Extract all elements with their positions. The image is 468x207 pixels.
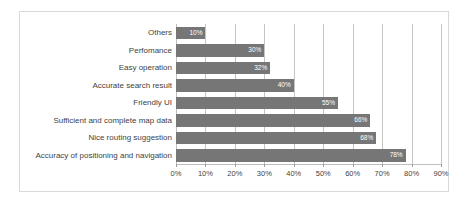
x-tick-mark xyxy=(235,164,236,167)
bar[interactable]: 55% xyxy=(176,97,338,110)
x-tick-mark xyxy=(412,164,413,167)
x-tick-mark xyxy=(176,164,177,167)
x-tick-label: 80% xyxy=(404,169,419,178)
x-tick-label: 20% xyxy=(227,169,242,178)
bar-row: 32% xyxy=(176,59,441,77)
x-tick-label: 30% xyxy=(257,169,272,178)
x-tick-label: 10% xyxy=(198,169,213,178)
category-axis-labels: Accuracy of positioning and navigationNi… xyxy=(30,24,172,164)
bar-value-label: 32% xyxy=(254,62,267,75)
category-label: Friendly UI xyxy=(32,94,172,112)
category-label: Easy operation xyxy=(32,59,172,77)
bar[interactable]: 30% xyxy=(176,44,264,57)
x-tick-label: 50% xyxy=(316,169,331,178)
bar-value-label: 78% xyxy=(390,149,403,162)
bar-row: 68% xyxy=(176,129,441,147)
x-tick-mark xyxy=(264,164,265,167)
x-tick-mark xyxy=(294,164,295,167)
chart-frame: Accuracy of positioning and navigationNi… xyxy=(19,11,449,192)
x-tick-label: 0% xyxy=(171,169,182,178)
bar-value-label: 66% xyxy=(354,114,367,127)
bar-value-label: 40% xyxy=(278,79,291,92)
bar[interactable]: 10% xyxy=(176,27,205,40)
category-label: Accurate search result xyxy=(32,77,172,95)
bar[interactable]: 68% xyxy=(176,132,376,145)
bar-value-label: 68% xyxy=(360,132,373,145)
category-label: Accuracy of positioning and navigation xyxy=(32,147,172,165)
bar-value-label: 55% xyxy=(322,97,335,110)
bar-series: 78%68%66%55%40%32%30%10% xyxy=(176,24,441,164)
bar-row: 40% xyxy=(176,77,441,95)
bar-row: 55% xyxy=(176,94,441,112)
bar[interactable]: 78% xyxy=(176,149,406,162)
bar-row: 10% xyxy=(176,24,441,42)
x-tick-mark xyxy=(441,164,442,167)
bar-row: 30% xyxy=(176,42,441,60)
x-tick-label: 40% xyxy=(286,169,301,178)
bar-row: 78% xyxy=(176,147,441,165)
bar[interactable]: 66% xyxy=(176,114,370,127)
category-label: Nice routing suggestion xyxy=(32,129,172,147)
x-tick-label: 70% xyxy=(375,169,390,178)
bar-value-label: 30% xyxy=(248,44,261,57)
bar-value-label: 10% xyxy=(189,27,202,40)
x-axis: 0%10%20%30%40%50%60%70%80%90% xyxy=(176,164,441,186)
bar-row: 66% xyxy=(176,112,441,130)
x-tick-mark xyxy=(353,164,354,167)
gridline-90% xyxy=(441,24,442,164)
category-label: Sufficient and complete map data xyxy=(32,112,172,130)
x-tick-label: 90% xyxy=(433,169,448,178)
category-label: Others xyxy=(32,24,172,42)
bar[interactable]: 32% xyxy=(176,62,270,75)
x-tick-mark xyxy=(205,164,206,167)
x-tick-mark xyxy=(323,164,324,167)
plot-area: 78%68%66%55%40%32%30%10% xyxy=(176,24,441,164)
x-tick-label: 60% xyxy=(345,169,360,178)
category-label: Perfomance xyxy=(32,42,172,60)
x-tick-mark xyxy=(382,164,383,167)
bar[interactable]: 40% xyxy=(176,79,294,92)
